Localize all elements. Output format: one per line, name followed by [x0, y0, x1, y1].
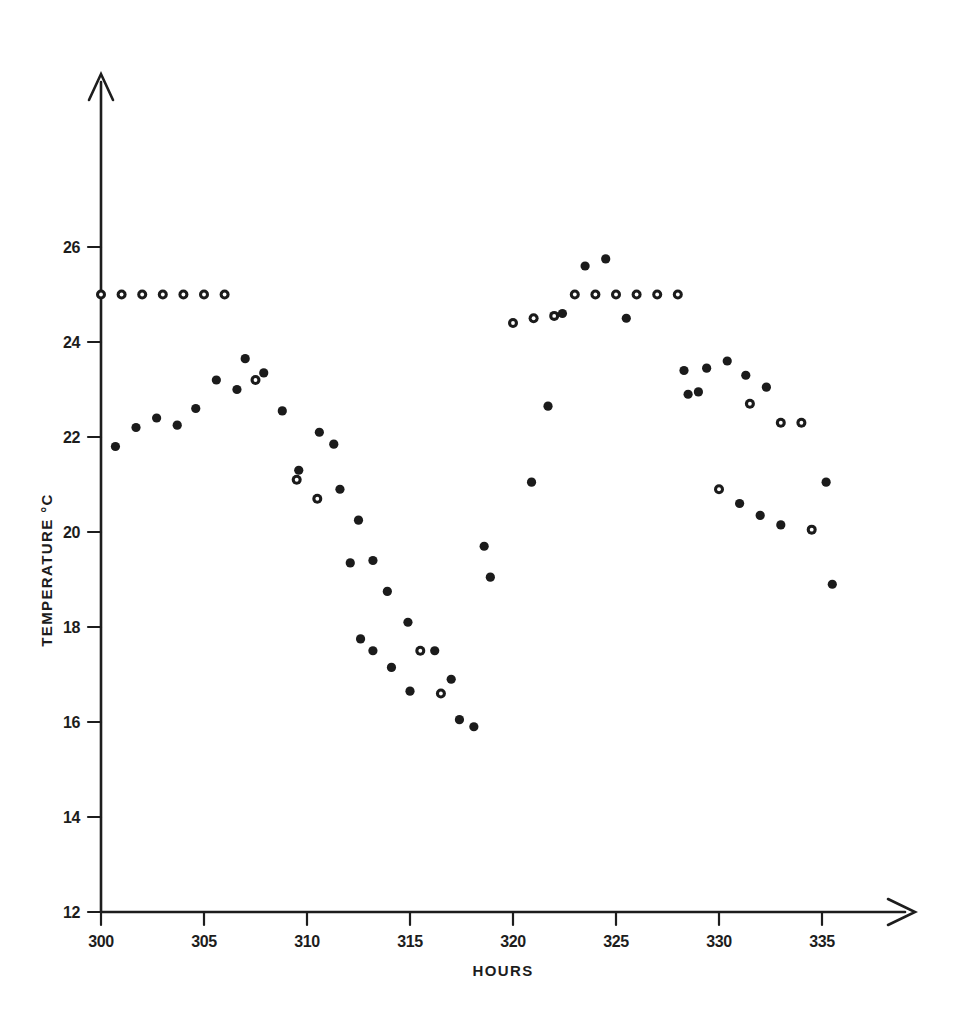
x-tick-label: 330 — [706, 933, 732, 950]
data-point-filled — [368, 556, 377, 565]
data-point-filled — [403, 618, 412, 627]
data-point-open-center — [779, 421, 783, 425]
data-point-open-center — [439, 692, 443, 696]
data-point-filled — [601, 254, 610, 263]
data-point-filled — [430, 646, 439, 655]
data-point-open-center — [552, 314, 556, 318]
y-axis: 1214161820222426 TEMPERATURE °C — [38, 74, 113, 921]
data-point-filled — [259, 368, 268, 377]
x-tick-label: 315 — [397, 933, 423, 950]
data-point-filled — [694, 387, 703, 396]
data-point-filled — [387, 663, 396, 672]
y-tick-group: 1214161820222426 — [63, 239, 101, 921]
data-point-filled — [356, 634, 365, 643]
data-point-filled — [480, 542, 489, 551]
x-tick-label: 305 — [191, 933, 217, 950]
data-point-filled — [152, 413, 161, 422]
y-tick-label: 18 — [63, 619, 80, 636]
data-point-open-center — [295, 478, 299, 482]
data-point-open-center — [655, 293, 659, 297]
series-group-2 — [111, 254, 837, 731]
data-point-open-center — [120, 293, 124, 297]
data-point-open-center — [573, 293, 577, 297]
data-point-open-center — [418, 649, 422, 653]
data-point-filled — [212, 375, 221, 384]
scatter-chart-figure: 1214161820222426 TEMPERATURE °C 30030531… — [0, 0, 962, 1023]
data-point-filled — [241, 354, 250, 363]
data-point-filled — [723, 356, 732, 365]
x-tick-group: 300305310315320325330335 — [88, 912, 835, 950]
y-tick-label: 26 — [63, 239, 80, 256]
data-point-filled — [335, 485, 344, 494]
data-point-filled — [346, 558, 355, 567]
data-point-open-center — [223, 293, 227, 297]
data-point-filled — [527, 478, 536, 487]
data-point-filled — [762, 383, 771, 392]
data-point-open-center — [140, 293, 144, 297]
data-point-filled — [558, 309, 567, 318]
data-point-filled — [131, 423, 140, 432]
data-point-filled — [543, 402, 552, 411]
x-axis: 300305310315320325330335 HOURS — [88, 899, 915, 979]
y-tick-label: 20 — [63, 524, 80, 541]
data-point-filled — [581, 261, 590, 270]
data-point-filled — [622, 314, 631, 323]
data-point-filled — [232, 385, 241, 394]
data-point-open-center — [511, 321, 515, 325]
data-point-filled — [405, 687, 414, 696]
data-point-filled — [735, 499, 744, 508]
data-point-filled — [383, 587, 392, 596]
y-tick-label: 22 — [63, 429, 80, 446]
data-point-filled — [776, 520, 785, 529]
data-point-filled — [469, 722, 478, 731]
data-point-filled — [447, 675, 456, 684]
data-point-open-center — [614, 293, 618, 297]
data-point-filled — [329, 440, 338, 449]
data-point-filled — [828, 580, 837, 589]
data-point-filled — [315, 428, 324, 437]
x-tick-label: 320 — [500, 933, 526, 950]
data-point-open-center — [810, 528, 814, 532]
series-group-1 — [96, 290, 817, 699]
data-point-filled — [486, 573, 495, 582]
data-point-filled — [111, 442, 120, 451]
data-point-open-center — [676, 293, 680, 297]
data-point-open-center — [254, 378, 258, 382]
data-point-open-center — [99, 293, 103, 297]
data-point-filled — [679, 366, 688, 375]
data-point-open-center — [315, 497, 319, 501]
data-point-filled — [294, 466, 303, 475]
data-point-filled — [173, 421, 182, 430]
data-point-open-center — [532, 316, 536, 320]
x-tick-label: 310 — [294, 933, 320, 950]
data-point-open-center — [748, 402, 752, 406]
y-axis-title: TEMPERATURE °C — [38, 493, 55, 647]
data-point-filled — [191, 404, 200, 413]
data-point-filled — [684, 390, 693, 399]
data-point-filled — [822, 478, 831, 487]
y-tick-label: 24 — [63, 334, 80, 351]
y-tick-label: 14 — [63, 809, 80, 826]
x-tick-label: 335 — [809, 933, 835, 950]
y-tick-label: 12 — [63, 904, 80, 921]
data-points-layer — [96, 254, 837, 731]
data-point-open-center — [182, 293, 186, 297]
x-axis-title: HOURS — [472, 962, 533, 979]
data-point-open-center — [717, 487, 721, 491]
x-tick-label: 300 — [88, 933, 114, 950]
data-point-filled — [368, 646, 377, 655]
data-point-open-center — [202, 293, 206, 297]
data-point-open-center — [800, 421, 804, 425]
data-point-open-center — [161, 293, 165, 297]
data-point-filled — [741, 371, 750, 380]
y-tick-label: 16 — [63, 714, 80, 731]
data-point-open-center — [594, 293, 598, 297]
data-point-filled — [702, 364, 711, 373]
x-tick-label: 325 — [603, 933, 629, 950]
chart-canvas: 1214161820222426 TEMPERATURE °C 30030531… — [0, 0, 962, 1023]
data-point-open-center — [635, 293, 639, 297]
data-point-filled — [354, 516, 363, 525]
data-point-filled — [756, 511, 765, 520]
data-point-filled — [455, 715, 464, 724]
data-point-filled — [278, 406, 287, 415]
